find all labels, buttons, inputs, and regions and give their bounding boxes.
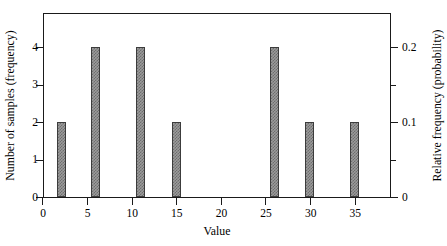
y-tick-label-left: 2: [32, 117, 38, 129]
y-tick-right: [391, 122, 398, 123]
x-axis-title: Value: [43, 224, 391, 238]
x-tick-label: 0: [40, 208, 46, 220]
bar: [270, 47, 279, 197]
bars-layer: [44, 14, 390, 197]
y-tick-label-left: 0: [32, 192, 38, 204]
y-axis-title-left: Number of samples (frequency): [2, 13, 18, 198]
x-tick-label: 10: [126, 208, 138, 220]
y-tick-label-right: 0.1: [402, 117, 416, 129]
x-tick: [355, 198, 356, 205]
x-tick: [221, 198, 222, 205]
bar: [172, 122, 181, 197]
x-tick: [132, 198, 133, 205]
x-tick-label: 25: [260, 208, 272, 220]
y-tick-label-right: 0: [402, 192, 408, 204]
bar: [350, 122, 359, 197]
x-tick-label: 5: [85, 208, 91, 220]
y-tick-label-left: 1: [32, 154, 38, 166]
y-tick-label-right: 0.2: [402, 42, 416, 54]
x-tick-label: 20: [216, 208, 228, 220]
y-tick-right: [391, 197, 398, 198]
bar: [136, 47, 145, 197]
y-tick-right: [391, 47, 398, 48]
y-tick-label-left: 3: [32, 79, 38, 91]
x-tick-label: 15: [171, 208, 183, 220]
x-tick-label: 30: [305, 208, 317, 220]
y-tick-right: [391, 160, 396, 161]
x-tick: [176, 198, 177, 205]
y-axis-title-right: Relative frequency (probability): [429, 13, 445, 198]
bar: [91, 47, 100, 197]
plot-area: [43, 13, 391, 198]
y-tick-label-left: 4: [32, 42, 38, 54]
x-tick: [42, 198, 43, 205]
bar: [57, 122, 66, 197]
histogram-figure: 0123400.10.205101520253035 Number of sam…: [0, 0, 447, 246]
y-tick-right: [391, 85, 396, 86]
x-tick: [265, 198, 266, 205]
x-tick: [310, 198, 311, 205]
x-tick-label: 35: [350, 208, 362, 220]
x-tick: [87, 198, 88, 205]
bar: [305, 122, 314, 197]
